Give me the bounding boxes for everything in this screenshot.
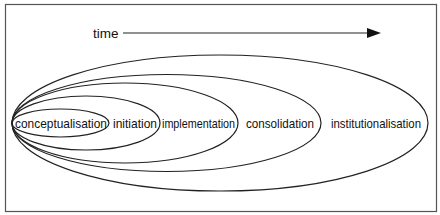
stage-label-consolidation: consolidation [246, 116, 314, 131]
stage-label-conceptualisation: conceptualisation [15, 116, 107, 131]
time-label: time [93, 26, 119, 41]
stage-diagram: time conceptualisation initiation implem… [0, 0, 440, 215]
stage-label-institutionalisation: institutionalisation [331, 116, 421, 131]
stage-label-implementation: implementation [162, 116, 235, 131]
stage-label-initiation: initiation [113, 116, 157, 131]
